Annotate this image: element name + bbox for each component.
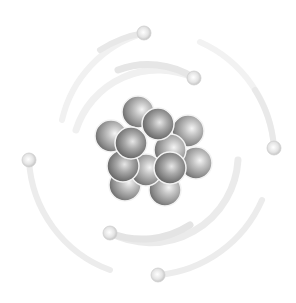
nucleon bbox=[115, 127, 147, 159]
nucleon bbox=[154, 152, 186, 184]
nucleus bbox=[95, 96, 212, 206]
electron bbox=[267, 141, 281, 155]
atom-graphic bbox=[0, 0, 296, 303]
electron bbox=[187, 71, 201, 85]
electron bbox=[151, 268, 165, 282]
electron bbox=[22, 153, 36, 167]
electron bbox=[137, 26, 151, 40]
atom-illustration bbox=[0, 0, 296, 303]
nucleon bbox=[142, 108, 174, 140]
electron bbox=[103, 226, 117, 240]
